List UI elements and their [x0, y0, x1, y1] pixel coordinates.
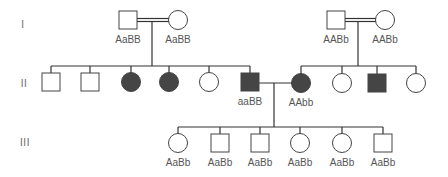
affected-female-circle: [122, 73, 141, 92]
unaffected-female-circle: [200, 73, 219, 92]
unaffected-male-square: [81, 73, 99, 91]
unaffected-female-circle: [333, 134, 352, 153]
affected-male-square: [368, 74, 386, 92]
unaffected-female-circle: [333, 74, 352, 93]
connector-lines: [51, 19, 416, 135]
pedigree-diagram: [0, 0, 448, 177]
generation-label: II: [21, 78, 28, 89]
unaffected-male-square: [251, 134, 269, 152]
genotype-label: AaBb: [330, 157, 354, 168]
affected-male-square: [241, 73, 259, 91]
generation-label: I: [21, 19, 24, 30]
unaffected-female-circle: [169, 134, 188, 153]
unaffected-male-square: [374, 134, 392, 152]
unaffected-male-square: [119, 11, 137, 29]
genotype-label: AaBb: [288, 157, 312, 168]
genotype-label: AaBb: [208, 157, 232, 168]
genotype-label: AaBB: [165, 34, 191, 45]
unaffected-female-circle: [376, 11, 395, 30]
unaffected-male-square: [42, 73, 60, 91]
unaffected-male-square: [327, 11, 345, 29]
affected-female-circle: [160, 73, 179, 92]
unaffected-female-circle: [407, 74, 426, 93]
generation-label: III: [20, 137, 30, 148]
genotype-label: aaBB: [238, 96, 262, 107]
genotype-label: AaBb: [248, 157, 272, 168]
unaffected-female-circle: [169, 11, 188, 30]
genotype-label: AAbb: [289, 97, 313, 108]
unaffected-male-square: [211, 134, 229, 152]
genotype-label: AaBB: [115, 34, 141, 45]
genotype-label: AaBb: [371, 157, 395, 168]
genotype-label: AaBb: [166, 157, 190, 168]
unaffected-female-circle: [291, 134, 310, 153]
genotype-label: AABb: [372, 34, 398, 45]
affected-female-circle: [292, 74, 311, 93]
genotype-label: AABb: [323, 34, 349, 45]
